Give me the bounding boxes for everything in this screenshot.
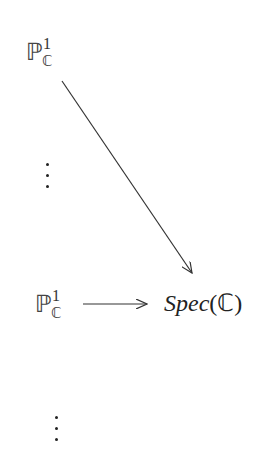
diagonal-arrow bbox=[62, 81, 192, 273]
spec-c: Spec(ℂ) bbox=[164, 291, 242, 315]
bottom-projective-line: ℙ 1 ℂ bbox=[35, 292, 75, 324]
vertical-dots-lower bbox=[55, 416, 59, 449]
spec-argument: (ℂ) bbox=[209, 290, 242, 316]
top-projective-line: ℙ 1 ℂ bbox=[26, 40, 66, 72]
blackboard-p: ℙ bbox=[26, 38, 43, 66]
superscript-one: 1 bbox=[52, 288, 60, 304]
blackboard-p: ℙ bbox=[35, 290, 52, 318]
superscript-one: 1 bbox=[43, 36, 51, 52]
vertical-dots-upper bbox=[46, 163, 50, 196]
subscript-c: ℂ bbox=[42, 54, 52, 69]
subscript-c: ℂ bbox=[51, 306, 61, 321]
spec-label: Spec bbox=[164, 290, 209, 316]
